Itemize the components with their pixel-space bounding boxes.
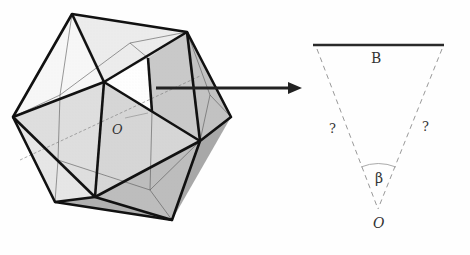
angle-label: β: [375, 170, 383, 186]
icosahedron: O: [0, 0, 240, 230]
arrowhead-icon: [288, 82, 302, 94]
right-radius: [378, 49, 442, 209]
apex-label: O: [373, 215, 385, 231]
sector-diagram: B ? ? β O: [313, 45, 444, 231]
angle-arc: [361, 164, 396, 168]
left-side-label: ?: [329, 121, 336, 136]
base-label: B: [371, 50, 381, 66]
diagram-canvas: O B ? ? β O: [0, 0, 470, 255]
center-label: O: [112, 122, 123, 137]
figure: O B ? ? β O: [0, 0, 470, 255]
right-side-label: ?: [422, 119, 429, 134]
left-radius: [317, 49, 378, 209]
